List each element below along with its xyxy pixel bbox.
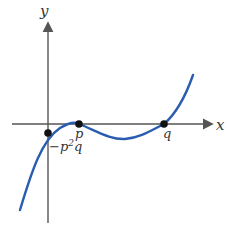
label-y-intercept: −p2q xyxy=(49,138,82,154)
cubic-graph: y x p q −p2q xyxy=(0,0,227,230)
y-axis-label: y xyxy=(39,2,49,20)
point-y-intercept xyxy=(44,129,52,137)
cubic-curve xyxy=(20,75,193,210)
x-axis-label: x xyxy=(216,116,225,134)
label-q: q xyxy=(163,126,171,141)
